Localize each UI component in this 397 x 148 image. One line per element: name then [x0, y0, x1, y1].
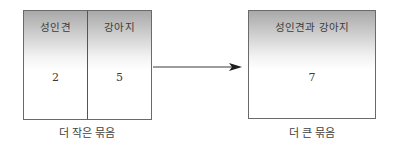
puppies-column: 강아지 5: [87, 11, 151, 119]
adult-dogs-column: 성인견 2: [24, 11, 87, 119]
larger-group-caption: 더 큰 묶음: [247, 124, 377, 140]
smaller-group-box: 성인견 2 강아지 5: [23, 10, 152, 120]
adult-dogs-value: 2: [24, 71, 87, 84]
puppies-header: 강아지: [88, 19, 151, 34]
adult-dogs-header: 성인견: [24, 19, 87, 34]
right-arrow-icon: [152, 61, 244, 73]
combined-value: 7: [249, 71, 375, 84]
larger-group-box: 성인견과 강아지 7: [248, 10, 376, 119]
puppies-value: 5: [88, 71, 151, 84]
adult-dogs-and-puppies-header: 성인견과 강아지: [249, 19, 375, 34]
smaller-group-caption: 더 작은 묶음: [22, 124, 152, 140]
